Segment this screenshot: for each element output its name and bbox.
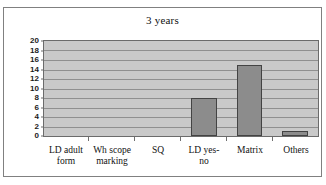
x-axis-label-line: Matrix: [228, 145, 272, 156]
y-axis-tick-label: 10: [30, 85, 39, 93]
y-axis-tick-label: 16: [30, 56, 39, 64]
plot-area: [43, 40, 319, 137]
bar-series: [44, 41, 318, 136]
x-axis-label-ld-adult-form: LD adultform: [43, 145, 89, 167]
x-axis-label-wh-scope-marking: Wh scopemarking: [89, 145, 135, 167]
x-axis-tick: [227, 137, 273, 141]
x-axis-label-line: Wh scope: [90, 145, 134, 156]
chart-title: 3 years: [4, 14, 321, 26]
bar-slot: [181, 41, 227, 136]
x-axis-ticks: [43, 137, 319, 141]
plot-region: 20181614121086420: [24, 40, 319, 137]
y-axis-tick-label: 2: [35, 123, 39, 131]
y-axis-tick-label: 20: [30, 37, 39, 45]
clipped-header-text: [4, 4, 321, 9]
x-axis-tick: [135, 137, 181, 141]
x-axis-label-line: LD yes-: [182, 145, 226, 156]
x-axis-label-others: Others: [273, 145, 319, 167]
bar-slot: [227, 41, 273, 136]
bar-slot: [272, 41, 318, 136]
y-axis-tick-label: 8: [35, 94, 39, 102]
chart-frame: 3 years 20181614121086420 LD adultformWh…: [3, 7, 322, 177]
bar-slot: [90, 41, 136, 136]
x-axis-tick: [43, 137, 89, 141]
x-axis-label-line: LD adult: [44, 145, 88, 156]
x-axis-label-line: SQ: [136, 145, 180, 156]
x-axis-tick: [181, 137, 227, 141]
y-axis-tick-label: 14: [30, 66, 39, 74]
y-axis-tick-label: 6: [35, 104, 39, 112]
x-axis-label-line: form: [44, 156, 88, 167]
x-axis-tick: [89, 137, 135, 141]
x-axis-label-sq: SQ: [135, 145, 181, 167]
bar-slot: [135, 41, 181, 136]
x-axis-label-ld-yes-no: LD yes-no: [181, 145, 227, 167]
x-axis-tick: [273, 137, 319, 141]
x-axis-label-line: marking: [90, 156, 134, 167]
y-axis-tick-label: 18: [30, 47, 39, 55]
bar-matrix[interactable]: [237, 65, 263, 136]
y-axis: 20181614121086420: [24, 40, 41, 137]
bar-ld-yes-no[interactable]: [191, 98, 217, 136]
x-axis-label-matrix: Matrix: [227, 145, 273, 167]
y-axis-tick-label: 0: [35, 132, 39, 140]
y-axis-tick-label: 4: [35, 113, 39, 121]
x-axis-label-line: no: [182, 156, 226, 167]
bar-slot: [44, 41, 90, 136]
y-axis-tick-label: 12: [30, 75, 39, 83]
x-axis-labels: LD adultformWh scopemarkingSQLD yes-noMa…: [43, 145, 319, 167]
x-axis-label-line: Others: [274, 145, 318, 156]
bar-others[interactable]: [282, 131, 308, 136]
